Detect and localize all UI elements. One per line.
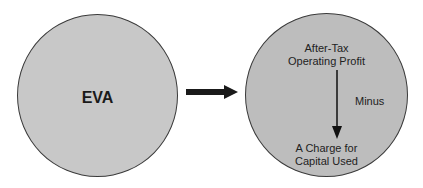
capital-charge-label: A Charge for Capital Used <box>246 142 407 168</box>
bottom-line-2: Capital Used <box>246 155 407 168</box>
eva-formula-circle: After-Tax Operating Profit Minus A Charg… <box>245 13 408 177</box>
bottom-line-1: A Charge for <box>246 142 407 155</box>
minus-label: Minus <box>355 95 384 107</box>
